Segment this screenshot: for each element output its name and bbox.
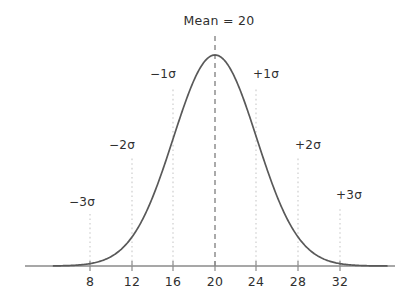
x-tick-label-8: 8 (86, 276, 94, 289)
sigma-label-plus-3: +3σ (336, 189, 362, 201)
sigma-label-minus-1: −1σ (150, 68, 176, 80)
x-tick-label-28: 28 (290, 276, 306, 289)
sigma-label-plus-1: +1σ (253, 68, 279, 80)
normal-distribution-chart: Mean = 20 −3σ −2σ −1σ +1σ +2σ +3σ 8 12 1… (0, 0, 417, 305)
chart-canvas (0, 0, 417, 305)
x-tick-label-24: 24 (248, 276, 264, 289)
sigma-label-plus-2: +2σ (295, 139, 321, 151)
sigma-label-minus-2: −2σ (109, 139, 135, 151)
x-tick-label-12: 12 (124, 276, 140, 289)
bell-curve-path (54, 55, 387, 266)
chart-title: Mean = 20 (183, 15, 254, 28)
x-tick-label-16: 16 (165, 276, 181, 289)
sigma-label-minus-3: −3σ (69, 196, 95, 208)
x-tick-label-20: 20 (207, 276, 223, 289)
x-tick-label-32: 32 (332, 276, 348, 289)
